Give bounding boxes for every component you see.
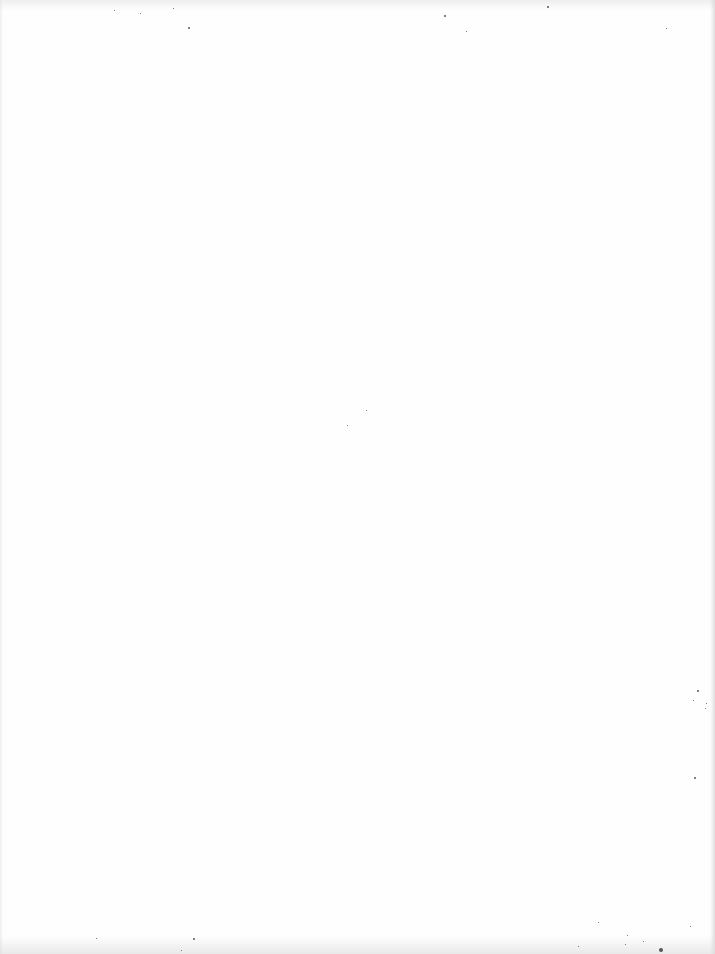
scan-speck bbox=[547, 6, 549, 8]
scan-speck bbox=[693, 700, 694, 701]
scan-speck bbox=[598, 922, 599, 923]
page-right-edge-shadow bbox=[710, 0, 715, 954]
page-left-edge-shadow bbox=[0, 0, 3, 954]
scan-speck bbox=[193, 938, 195, 940]
scan-speck bbox=[347, 425, 348, 426]
scan-speck bbox=[643, 941, 644, 942]
scan-speck bbox=[625, 944, 626, 945]
scan-speck bbox=[173, 8, 174, 9]
scan-speck bbox=[140, 13, 141, 14]
scan-speck bbox=[188, 27, 190, 29]
scan-speck bbox=[114, 10, 115, 11]
scan-speck bbox=[666, 28, 667, 29]
scanned-page bbox=[0, 0, 715, 954]
scan-speck bbox=[181, 950, 182, 951]
scan-speck bbox=[466, 31, 467, 32]
page-top-edge-shadow bbox=[0, 0, 715, 10]
scan-speck bbox=[96, 938, 97, 939]
scan-speck bbox=[444, 15, 446, 17]
scan-speck bbox=[697, 690, 699, 692]
scan-speck bbox=[694, 777, 696, 779]
scan-speck bbox=[659, 948, 663, 952]
scan-speck bbox=[578, 946, 579, 947]
scan-speck bbox=[366, 410, 367, 411]
scan-speck bbox=[706, 703, 707, 704]
page-bottom-edge-shadow bbox=[0, 936, 715, 954]
scan-speck bbox=[705, 708, 706, 709]
scan-speck bbox=[627, 935, 628, 936]
scan-speck bbox=[690, 926, 691, 927]
